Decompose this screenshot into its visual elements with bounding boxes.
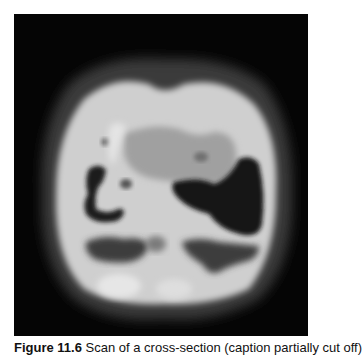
figure-image <box>14 14 308 336</box>
figure-caption-text: Scan of a cross-section (caption partial… <box>82 340 362 355</box>
scan-image <box>14 14 308 336</box>
figure-label: Figure 11.6 <box>14 340 82 355</box>
figure-caption: Figure 11.6 Scan of a cross-section (cap… <box>14 340 314 356</box>
